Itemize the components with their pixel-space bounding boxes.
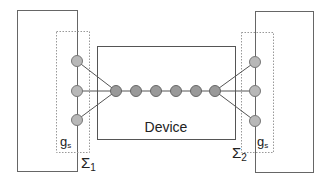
right-node [250,86,261,97]
right-group-label: gs [257,134,268,150]
diagram-canvas: Device gs gs Σ1 Σ2 [0,0,329,184]
left-node [72,56,83,67]
right-surface-nodes [250,57,261,127]
left-group-label: gs [60,134,71,150]
left-node [72,115,83,126]
right-node [250,57,261,68]
device-label: Device [145,119,188,135]
left-surface-nodes [72,56,83,126]
chain-node [111,86,122,97]
chain-node [151,86,162,97]
right-node [250,116,261,127]
chain-node [191,86,202,97]
sigma-1-label: Σ1 [81,154,96,173]
left-node [72,86,83,97]
sigma-2-label: Σ2 [232,144,247,163]
chain-node [131,86,142,97]
chain-node [210,86,221,97]
chain-node [171,86,182,97]
